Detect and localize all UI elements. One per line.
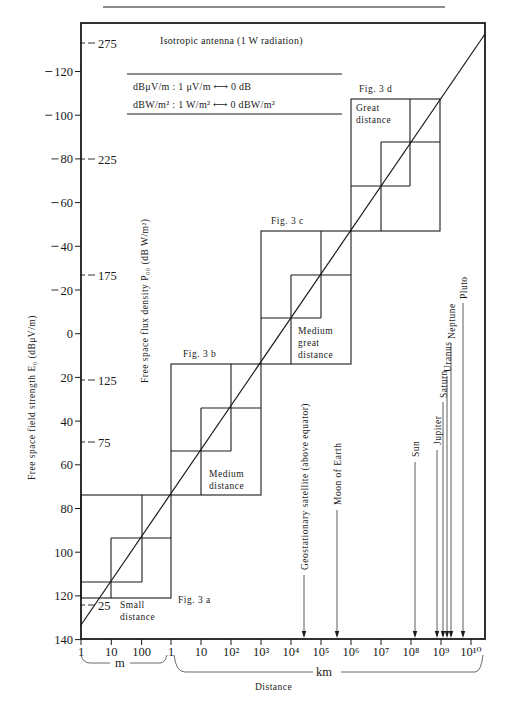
annotation-label: Moon of Earth <box>333 443 343 505</box>
left-tick-label: 60 <box>61 458 74 472</box>
chart-title: Isotropic antenna (1 W radiation) <box>160 35 303 47</box>
flux-tick-label: 275 <box>98 37 117 51</box>
left-axis-title: Free space field strength E₀ (dBμV/m) <box>27 315 38 480</box>
left-tick-label: 100 <box>54 109 73 123</box>
annotation-label: Jupiter <box>433 415 443 445</box>
region-small-label: Smalldistance <box>120 600 155 622</box>
annotation-label: Neptune <box>447 303 457 339</box>
region-medium-label: Mediumdistance <box>209 469 244 491</box>
x-tick-label: 10⁴ <box>283 645 300 659</box>
left-tick-label: 40 <box>61 240 74 254</box>
flux-tick-label: 25 <box>98 599 111 613</box>
region-great-label: Greatdistance <box>356 103 391 125</box>
x-axis-title: Distance <box>255 682 292 692</box>
km-unit-label: km <box>316 665 332 679</box>
flux-tick-label: 175 <box>98 269 117 283</box>
x-tick-label: 10⁶ <box>343 645 360 659</box>
x-axis: 11010011010²10³10⁴10⁵10⁶10⁷10⁸10⁹10¹⁰ <box>78 639 482 659</box>
fig-3c-label: Fig. 3 c <box>271 216 304 226</box>
m-unit-label: m <box>115 656 125 670</box>
left-tick-label: 100 <box>54 546 73 560</box>
x-tick-label: 10¹⁰ <box>460 645 481 659</box>
left-tick-label: 40 <box>61 415 74 429</box>
left-tick-label: 0 <box>67 327 73 341</box>
flux-tick-label: 225 <box>98 153 117 167</box>
flux-tick-label: 75 <box>98 436 111 450</box>
field-strength-chart: Isotropic antenna (1 W radiation) dBμV/m… <box>0 0 505 712</box>
fig-3d-label: Fig. 3 d <box>359 84 392 94</box>
x-tick-label: 10 <box>195 645 208 659</box>
x-tick-label: 10⁵ <box>313 645 330 659</box>
flux-tick-label: 125 <box>98 374 117 388</box>
x-tick-label: 10⁹ <box>433 645 450 659</box>
annotation-label: Sun <box>411 441 421 457</box>
note-dbuv: dBμV/m : 1 μV/m ⟷ 0 dB <box>133 81 251 92</box>
x-tick-label: 10⁸ <box>403 645 420 659</box>
annotation-label: Pluto <box>459 276 469 299</box>
annotation-label: Geostationary satellite (above equator) <box>300 403 311 570</box>
x-tick-label: 100 <box>132 645 151 659</box>
x-tick-label: 10⁷ <box>373 645 390 659</box>
flux-axis: 2752251751257525 <box>81 37 117 613</box>
flux-axis-title: Free space flux density P₀₀ (dB W/m²) <box>140 219 151 383</box>
left-tick-label: 20 <box>61 371 74 385</box>
left-tick-label: 60 <box>61 196 74 210</box>
region-boxes <box>81 99 440 598</box>
left-tick-label: 120 <box>54 589 73 603</box>
x-tick-label: 1 <box>78 645 84 659</box>
left-axis: 12010080604020020406080100120140 <box>45 65 81 647</box>
left-tick-label: 120 <box>54 65 73 79</box>
x-tick-label: 10³ <box>253 645 270 659</box>
left-tick-label: 140 <box>54 633 73 647</box>
left-tick-label: 20 <box>61 284 74 298</box>
fig-3a-label: Fig. 3 a <box>178 595 211 605</box>
x-tick-label: 10² <box>223 645 240 659</box>
region-medium-great-label: Mediumgreatdistance <box>298 326 333 360</box>
left-tick-label: 80 <box>61 502 74 516</box>
note-dbw: dBW/m² : 1 W/m² ⟷ 0 dBW/m² <box>133 99 275 110</box>
fig-3b-label: Fig. 3 b <box>183 349 216 359</box>
x-tick-label: 1 <box>168 645 174 659</box>
left-tick-label: 80 <box>61 152 74 166</box>
